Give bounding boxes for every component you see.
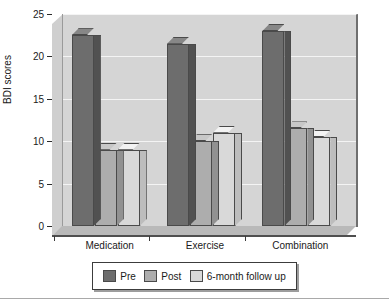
- bar-side: [140, 150, 147, 226]
- legend-label-followup: 6-month follow up: [207, 271, 286, 282]
- legend-item-pre: Pre: [103, 270, 136, 282]
- bar-face: [72, 35, 94, 226]
- y-axis-title: BDI scores: [2, 55, 13, 104]
- page-divider: [0, 298, 389, 299]
- bar-side: [307, 128, 314, 226]
- bar-side: [235, 133, 242, 226]
- bar-side: [117, 150, 124, 226]
- bar-top: [167, 37, 189, 44]
- bar-face: [262, 31, 284, 226]
- bar-side: [212, 141, 219, 226]
- legend-item-post: Post: [144, 270, 181, 282]
- legend-label-post: Post: [161, 271, 181, 282]
- y-axis: BDI scores 0510152025: [0, 14, 52, 236]
- legend-swatch-post: [144, 270, 157, 282]
- bar-top: [72, 28, 94, 35]
- legend-item-followup: 6-month follow up: [190, 270, 286, 282]
- bar-combination-pre: [262, 24, 284, 226]
- y-tick-label-15: 15: [33, 93, 44, 104]
- x-axis-label-combination: Combination: [272, 240, 328, 251]
- bar-side: [189, 44, 196, 226]
- bar-side: [94, 35, 101, 226]
- x-tick-1: [149, 236, 150, 241]
- x-axis-label-exercise: Exercise: [186, 240, 224, 251]
- bar-top: [262, 24, 284, 31]
- plot-area: [52, 14, 356, 236]
- y-axis-line: [62, 14, 63, 227]
- bdi-scores-bar-chart: BDI scores 0510152025 MedicationExercise…: [0, 0, 389, 306]
- bar-medication-pre: [72, 28, 94, 226]
- bar-top: [213, 126, 235, 133]
- x-tick-2: [245, 236, 246, 241]
- y-tick-label-0: 0: [38, 221, 44, 232]
- legend: Pre Post 6-month follow up: [92, 262, 297, 290]
- legend-swatch-pre: [103, 270, 116, 282]
- x-axis-label-medication: Medication: [85, 240, 133, 251]
- bar-top: [118, 143, 140, 150]
- bar-side: [330, 137, 337, 226]
- bar-side: [284, 31, 291, 226]
- x-tick-0: [54, 236, 55, 241]
- y-tick-label-5: 5: [38, 178, 44, 189]
- x-axis-line: [52, 235, 356, 237]
- gridline-15: [62, 99, 356, 100]
- legend-swatch-followup: [190, 270, 203, 282]
- bar-face: [167, 44, 189, 226]
- legend-label-pre: Pre: [120, 271, 136, 282]
- bar-exercise-pre: [167, 37, 189, 226]
- y-tick-label-25: 25: [33, 9, 44, 20]
- gridline-20: [62, 56, 356, 57]
- y-tick-label-10: 10: [33, 136, 44, 147]
- y-tick-label-20: 20: [33, 51, 44, 62]
- gridline-25: [62, 14, 356, 15]
